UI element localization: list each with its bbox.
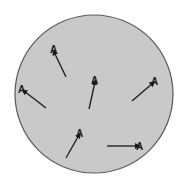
particle-label: A [76,128,83,139]
container-circle [15,15,173,173]
particle-diagram: AAAAAA [0,0,187,183]
particle-label: A [91,75,98,86]
particle-label: A [18,84,25,95]
particle-label: A [136,141,143,152]
particle-label: A [50,44,57,55]
particle-label: A [151,76,158,87]
